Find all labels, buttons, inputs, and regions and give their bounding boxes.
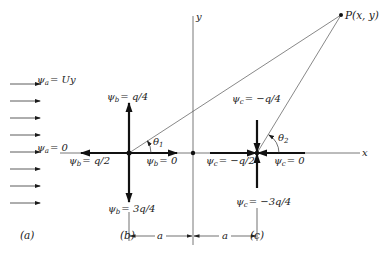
- panel-c-label-left: ψc= −q/2: [206, 155, 255, 168]
- theta2-label: θ2: [278, 132, 289, 145]
- panel-b-caption: (b): [120, 229, 135, 241]
- point-p-label: P(x, y): [344, 9, 379, 21]
- source-point: [127, 151, 132, 156]
- theta1-label: θ1: [153, 136, 164, 149]
- x-axis-label: x: [362, 147, 368, 158]
- panel-a-caption: (a): [20, 229, 34, 241]
- panel-b-label-left: ψb= q/2: [69, 155, 110, 168]
- panel-b-label-right: ψb= 0: [146, 155, 178, 168]
- dimension-label-left: a: [157, 230, 163, 241]
- panel-b-label-bottom: ψb= 3q/4: [108, 203, 155, 216]
- y-axis-label: y: [195, 11, 202, 22]
- superposition-diagram: ψa= Uy ψa= 0 (a) x y P(x, y) θ1 ψb= q/4 …: [0, 0, 383, 267]
- panel-c-label-top: ψc= −q/4: [232, 93, 281, 106]
- theta1-arc: [148, 141, 152, 153]
- panel-c-label-bottom: ψc= −3q/4: [236, 196, 291, 209]
- panel-a-label-top: ψa= Uy: [37, 74, 76, 87]
- panel-b-label-top: ψb= q/4: [107, 91, 148, 104]
- point-p: [339, 13, 343, 17]
- sink-point: [255, 151, 260, 156]
- panel-c-label-right: ψc= 0: [274, 155, 305, 168]
- ray-sink-to-p: [257, 15, 341, 153]
- ray-source-to-p: [129, 15, 341, 153]
- dimension-label-right: a: [222, 230, 228, 241]
- origin-point: [191, 151, 195, 155]
- uniform-flow-arrows: [10, 84, 40, 203]
